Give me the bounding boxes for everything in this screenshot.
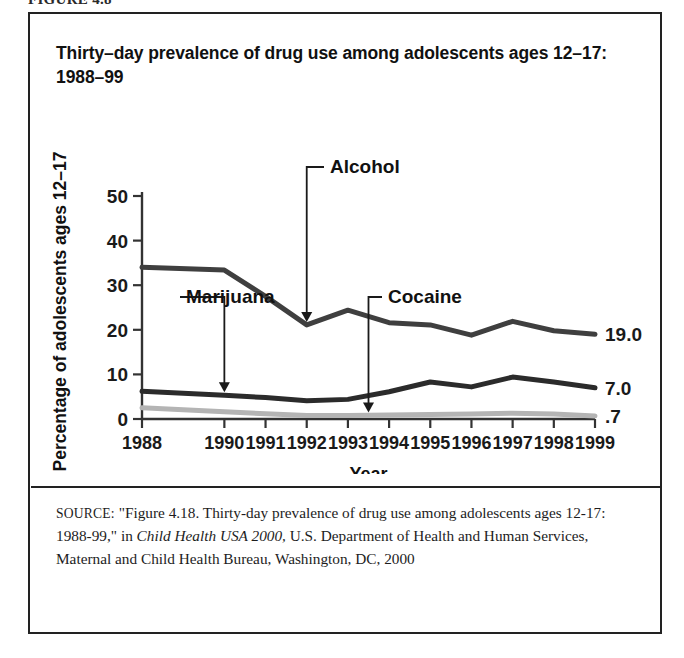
source-divider (31, 486, 661, 488)
annotation-leader-marijuana (180, 297, 224, 383)
x-axis-tick-label: 1999 (575, 433, 615, 453)
x-axis-tick-label: 1988 (122, 433, 162, 453)
series-end-label-cocaine: .7 (605, 406, 621, 427)
x-axis-tick-label: 1996 (451, 433, 491, 453)
x-axis-tick-label: 1995 (410, 433, 450, 453)
y-axis-tick-label: 40 (107, 231, 128, 252)
chart-title: Thirty–day prevalence of drug use among … (56, 42, 616, 89)
series-end-label-alcohol: 19.0 (605, 324, 642, 345)
annotation-arrowhead-marijuana (219, 382, 230, 392)
source-label: SOURCE: (56, 506, 115, 521)
chart-plot-area: 0102030405019881990199119921993199419951… (30, 124, 664, 474)
y-axis-tick-label: 20 (107, 320, 128, 341)
series-end-label-marijuana: 7.0 (605, 378, 631, 399)
x-axis-tick-label: 1992 (287, 433, 327, 453)
annotation-leader-alcohol (307, 167, 324, 313)
x-axis-tick-label: 1993 (328, 433, 368, 453)
y-axis-tick-label: 10 (107, 364, 128, 385)
figure-caption: FIGURE 4.8 (28, 0, 112, 8)
figure-box: Thirty–day prevalence of drug use among … (28, 12, 662, 634)
y-axis-title: Percentage of adolescents ages 12–17 (50, 151, 70, 471)
annotation-leader-cocaine (369, 297, 383, 403)
annotation-label-marijuana: Marijuana (186, 286, 275, 307)
annotation-arrowhead-cocaine (363, 402, 374, 412)
y-axis-tick-label: 50 (107, 186, 128, 207)
x-axis-title: Year (349, 464, 387, 474)
x-axis-tick-label: 1991 (246, 433, 286, 453)
source-publication-title: Child Health USA 2000, (137, 527, 286, 544)
source-note: SOURCE: "Figure 4.18. Thirty-day prevale… (56, 502, 644, 571)
y-axis-tick-label: 0 (117, 409, 128, 430)
x-axis-tick-label: 1997 (493, 433, 533, 453)
y-axis-tick-label: 30 (107, 275, 128, 296)
line-chart-svg: 0102030405019881990199119921993199419951… (30, 124, 664, 474)
x-axis-tick-label: 1990 (204, 433, 244, 453)
x-axis-tick-label: 1994 (369, 433, 409, 453)
annotation-label-cocaine: Cocaine (388, 286, 462, 307)
annotation-label-alcohol: Alcohol (330, 156, 400, 177)
x-axis-tick-label: 1998 (534, 433, 574, 453)
